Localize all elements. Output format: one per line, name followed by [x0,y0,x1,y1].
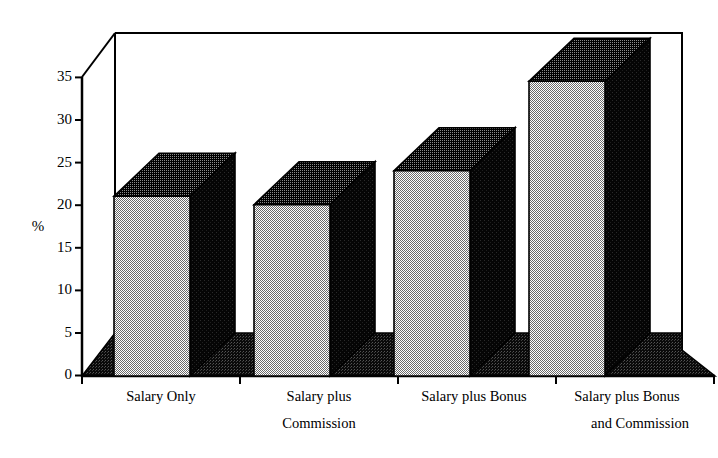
y-tick-label: 15 [57,239,72,255]
y-axis-title: % [32,218,45,234]
y-tick-0: 0 [65,366,83,382]
x-axis-labels: Salary Only Salary plus Commission Salar… [126,388,690,431]
y-tick-5: 5 [65,324,83,340]
bar-front-face [114,196,190,376]
bar-front-face [254,205,330,376]
bar-side-face [470,128,515,376]
y-tick-25: 25 [57,154,82,170]
x-category-label-4-line2: and Commission [591,415,690,431]
y-tick-label: 10 [57,281,72,297]
x-category-label-3: Salary plus Bonus [421,388,527,404]
bar-front-face [394,171,470,376]
x-category-label-2-line2: Commission [282,415,356,431]
x-category-label-4-line1: Salary plus Bonus [574,388,680,404]
bar-salary-only[interactable] [114,153,235,376]
bar-salary-plus-bonus-and-commission[interactable] [529,38,650,376]
y-tick-label: 5 [65,324,73,340]
y-tick-label: 30 [57,111,72,127]
y-tick-label: 25 [57,154,72,170]
bar-salary-plus-commission[interactable] [254,162,375,376]
bar-front-face [529,81,605,376]
y-tick-label: 20 [57,196,72,212]
y-tick-10: 10 [57,281,82,297]
y-tick-35: 35 [57,68,82,84]
y-tick-20: 20 [57,196,82,212]
bar-chart: 0 5 10 15 20 25 [0,0,718,458]
depth-edge-topleft [82,33,115,77]
y-tick-label: 0 [65,366,73,382]
x-category-label-1: Salary Only [126,388,196,404]
y-tick-15: 15 [57,239,82,255]
y-axis: 0 5 10 15 20 25 [32,68,82,382]
chart-canvas: 0 5 10 15 20 25 [0,0,718,458]
bar-side-face [605,38,650,376]
y-tick-30: 30 [57,111,82,127]
y-tick-label: 35 [57,68,72,84]
bar-salary-plus-bonus[interactable] [394,128,515,376]
x-category-label-2-line1: Salary plus [287,388,352,404]
